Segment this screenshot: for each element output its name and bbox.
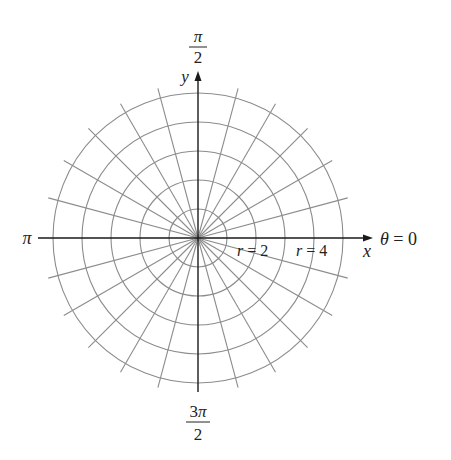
grid-spoke	[64, 161, 198, 239]
label-x-axis: x	[362, 241, 371, 261]
label-r-2: r = 2	[237, 242, 268, 259]
axes	[38, 71, 373, 392]
label-bottom-denominator: 2	[194, 425, 203, 444]
grid-spoke	[64, 238, 198, 316]
grid-spoke	[198, 238, 238, 388]
grid-spoke	[121, 238, 199, 372]
y-axis-arrow-icon	[195, 71, 202, 81]
grid-spoke	[158, 88, 198, 238]
label-y-axis: y	[179, 67, 189, 86]
label-bottom-numerator: 3π	[189, 402, 207, 421]
label-r-4: r = 4	[296, 242, 327, 259]
label-top-numerator: π	[194, 27, 203, 46]
grid-spoke	[198, 161, 332, 239]
grid-spoke	[198, 198, 348, 238]
grid-spoke	[198, 104, 276, 238]
grid-spoke	[198, 88, 238, 238]
grid-spoke	[48, 238, 198, 278]
grid-spoke	[88, 238, 198, 348]
grid-spoke	[48, 198, 198, 238]
label-theta-zero: θ = 0	[380, 229, 417, 249]
grid-spoke	[121, 104, 199, 238]
label-top-denominator: 2	[194, 48, 203, 67]
grid-spoke	[88, 128, 198, 238]
label-pi-left: π	[22, 228, 32, 248]
polar-grid-diagram: π 2 y π x θ = 0 r = 2 r = 4 3π 2	[0, 0, 451, 460]
grid-spoke	[198, 128, 308, 238]
grid-spoke	[158, 238, 198, 388]
